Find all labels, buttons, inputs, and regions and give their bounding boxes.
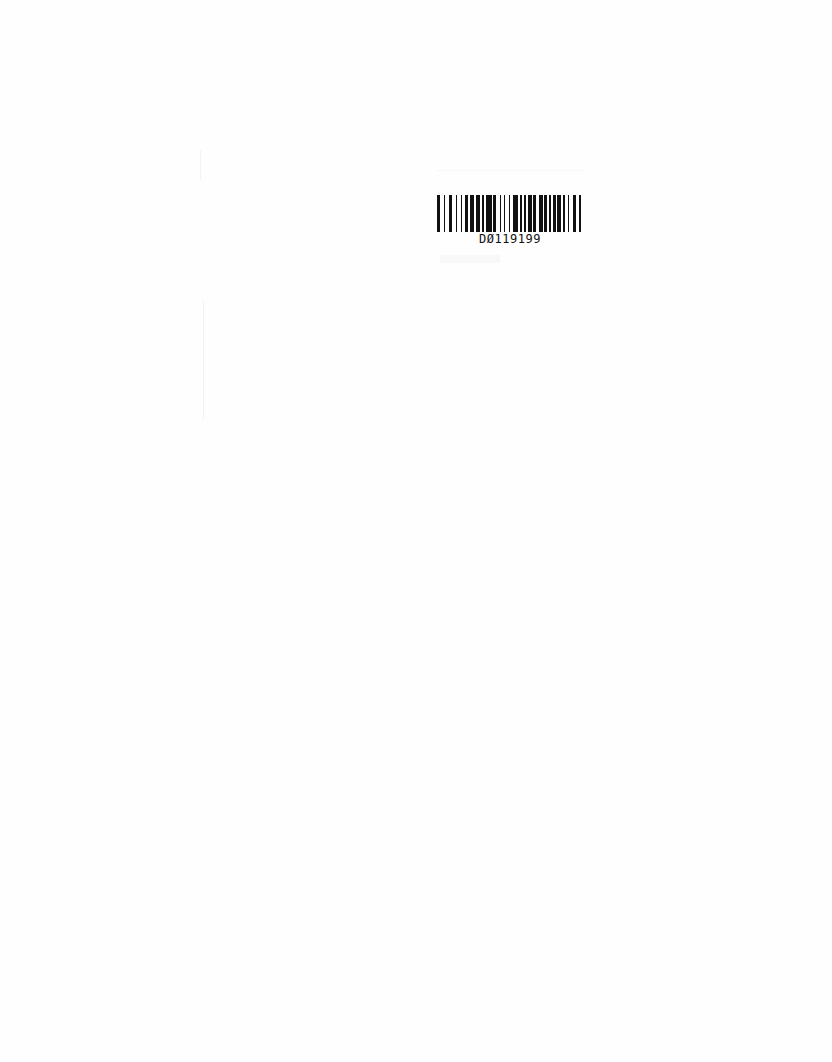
- scanned-page: DØ119199: [0, 0, 832, 1062]
- barcode: DØ119199: [437, 195, 583, 246]
- barcode-gap: [581, 195, 582, 232]
- barcode-label: DØ119199: [437, 233, 583, 246]
- show-through-mark: [203, 300, 204, 420]
- show-through-mark: [436, 170, 586, 171]
- show-through-mark: [440, 255, 500, 263]
- show-through-mark: [200, 150, 201, 180]
- barcode-bars: [437, 195, 583, 232]
